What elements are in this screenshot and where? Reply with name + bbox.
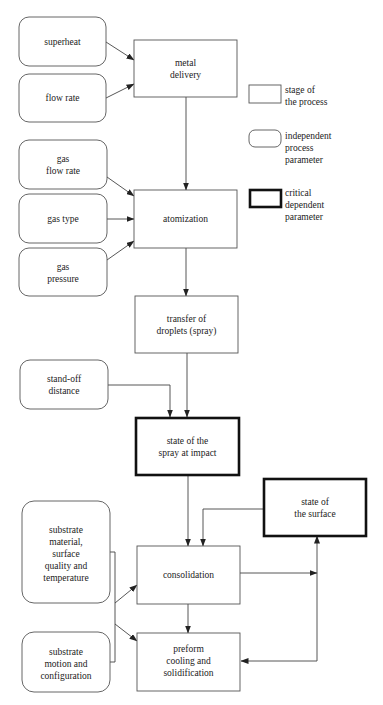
node-label: temperature xyxy=(43,573,88,583)
node-label: delivery xyxy=(170,70,201,80)
node-preform: preform cooling and solidification xyxy=(137,633,240,691)
node-label: substrate xyxy=(49,647,83,657)
node-label: the surface xyxy=(294,509,335,519)
node-label: consolidation xyxy=(163,570,214,580)
node-label: quality and xyxy=(45,561,88,571)
legend-label: parameter xyxy=(285,155,324,165)
node-label: gas xyxy=(57,154,70,164)
node-label: droplets (spray) xyxy=(157,326,217,337)
legend-stage: stage of the process xyxy=(249,85,328,107)
node-gas-flow-rate: gas flow rate xyxy=(19,140,107,189)
node-label: distance xyxy=(48,386,79,396)
node-transfer: transfer of droplets (spray) xyxy=(135,296,238,353)
edge-superheat-metal-delivery xyxy=(106,42,134,60)
node-label: material, xyxy=(49,537,83,547)
node-label: cooling and xyxy=(166,656,211,666)
legend-critical: critical dependent parameter xyxy=(250,188,324,222)
node-substrate-material: substrate material, surface quality and … xyxy=(22,501,110,603)
legend-label: parameter xyxy=(285,212,324,222)
edge-gas-flowrate-atomization xyxy=(107,177,134,196)
node-consolidation: consolidation xyxy=(137,546,240,604)
node-label: atomization xyxy=(163,214,208,224)
node-label: transfer of xyxy=(167,314,207,324)
edge-surface-state-consolidation xyxy=(203,509,263,546)
node-metal-delivery: metal delivery xyxy=(134,40,237,97)
node-label: flow rate xyxy=(45,93,79,103)
edge-gas-pressure-atomization xyxy=(107,241,134,260)
node-label: stand-off xyxy=(47,374,82,384)
legend-label: independent xyxy=(285,131,332,141)
node-label: state of xyxy=(301,497,330,507)
node-atomization: atomization xyxy=(134,190,237,248)
node-label: spray at impact xyxy=(158,448,216,458)
node-label: motion and xyxy=(44,659,87,669)
node-label: state of the xyxy=(167,436,209,446)
node-surface-state: state of the surface xyxy=(264,479,366,536)
node-flow-rate: flow rate xyxy=(19,74,106,122)
substrate-bracket xyxy=(110,552,115,662)
node-label: solidification xyxy=(163,668,213,678)
legend-label: stage of xyxy=(285,85,316,95)
node-label: gas type xyxy=(47,214,78,224)
legend-label: process xyxy=(285,143,314,153)
node-label: superheat xyxy=(44,37,81,47)
process-flowchart: superheat flow rate metal delivery gas f… xyxy=(0,0,383,705)
legend-label: dependent xyxy=(285,200,324,210)
node-gas-type: gas type xyxy=(19,194,107,243)
node-label: preform xyxy=(173,644,204,654)
node-gas-pressure: gas pressure xyxy=(19,248,107,296)
edge-flowrate-metal-delivery xyxy=(106,84,134,98)
node-label: pressure xyxy=(47,274,79,284)
node-label: configuration xyxy=(40,671,91,681)
node-spray-impact: state of the spray at impact xyxy=(136,418,239,475)
node-standoff: stand-off distance xyxy=(20,360,108,409)
node-label: surface xyxy=(52,549,79,559)
legend-label: the process xyxy=(285,97,328,107)
edge-substrate-preform xyxy=(115,624,137,641)
edge-substrate-consolidation xyxy=(115,585,137,603)
edge-standoff-spray-impact xyxy=(108,385,170,417)
node-label: metal xyxy=(175,58,196,68)
legend-independent: independent process parameter xyxy=(249,130,332,165)
node-label: substrate xyxy=(49,525,83,535)
node-label: gas xyxy=(57,262,70,272)
legend-label: critical xyxy=(285,188,312,198)
legend: stage of the process independent process… xyxy=(249,85,332,222)
node-label: flow rate xyxy=(46,166,80,176)
node-superheat: superheat xyxy=(19,17,106,66)
node-substrate-motion: substrate motion and configuration xyxy=(22,632,110,692)
